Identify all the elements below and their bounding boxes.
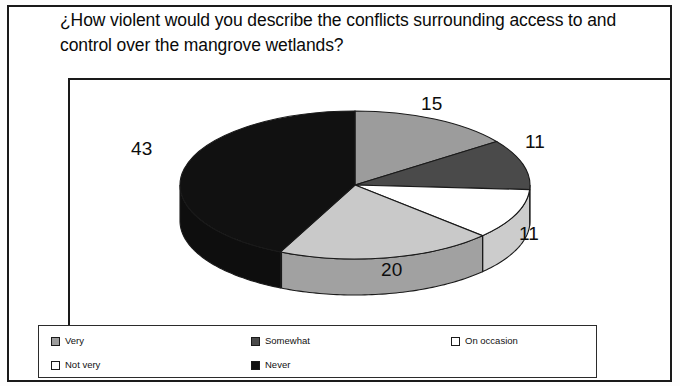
chart-page: ¿How violent would you describe the conf… (0, 0, 680, 386)
legend-item-somewhat[interactable]: Somewhat (251, 336, 310, 346)
legend-item-never[interactable]: Never (251, 360, 290, 370)
legend-swatch-icon (251, 361, 260, 370)
data-label-very: 15 (421, 93, 443, 115)
legend-label: Never (265, 360, 290, 370)
pie-chart-svg (70, 82, 672, 322)
legend-item-very[interactable]: Very (51, 336, 84, 346)
data-label-never: 43 (131, 138, 153, 160)
legend-label: Very (65, 336, 84, 346)
data-label-on-occasion: 11 (519, 223, 539, 245)
legend-label: Somewhat (265, 336, 310, 346)
legend-swatch-icon (51, 361, 60, 370)
legend-swatch-icon (251, 337, 260, 346)
legend-label: On occasion (465, 336, 518, 346)
legend-item-on-occasion[interactable]: On occasion (451, 336, 518, 346)
legend-swatch-icon (51, 337, 60, 346)
page-title: ¿How violent would you describe the conf… (60, 8, 660, 58)
plot-area-top-border (68, 78, 672, 80)
pie-3d-tops (180, 111, 530, 259)
legend-label: Not very (65, 360, 100, 370)
data-label-somewhat: 11 (525, 131, 545, 153)
data-label-not-very: 20 (381, 259, 403, 281)
pie-chart (70, 82, 672, 322)
legend: VerySomewhatOn occasionNot veryNever (38, 325, 597, 378)
legend-swatch-icon (451, 337, 460, 346)
legend-item-not-very[interactable]: Not very (51, 360, 100, 370)
